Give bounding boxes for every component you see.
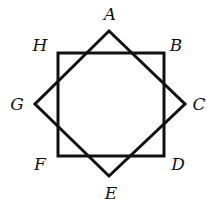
label-e: E	[104, 183, 118, 203]
label-a: A	[102, 4, 116, 24]
label-c: C	[192, 94, 205, 114]
label-g: G	[10, 94, 24, 114]
label-h: H	[32, 35, 49, 55]
label-d: D	[170, 154, 185, 174]
star-diagram: A B C D E F G H	[0, 0, 218, 204]
label-f: F	[33, 154, 47, 174]
label-b: B	[169, 35, 183, 55]
